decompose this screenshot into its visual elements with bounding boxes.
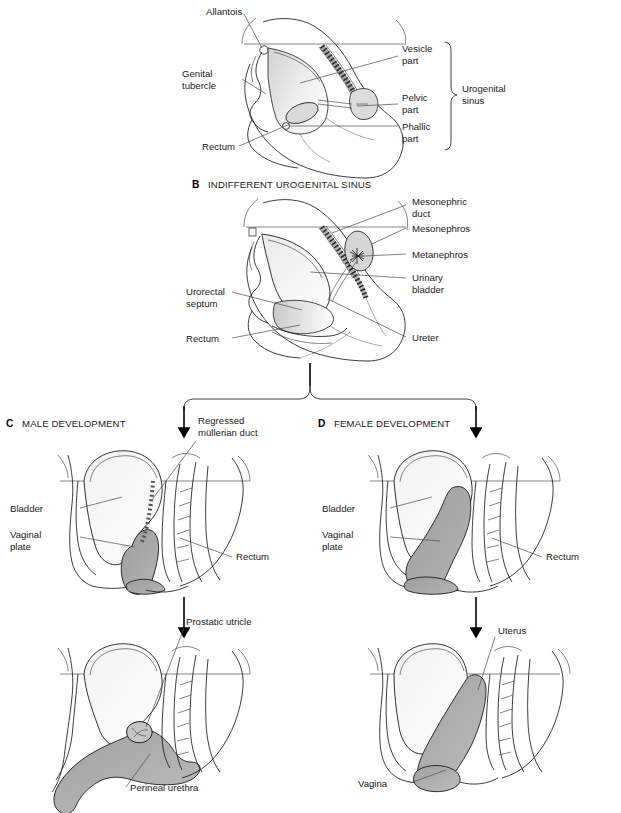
label-urorectal-septum-line1: Urorectal [186,286,225,297]
label-vaginal-plate-d-line2: plate [322,541,343,552]
panel-c-letter: C [6,418,14,429]
label-bladder-d-upper: Bladder [322,503,356,514]
label-urogenital-sinus-line2: sinus [462,95,485,106]
perineal-urethra-shape [54,730,200,813]
label-urinary-bladder-line2: bladder [412,284,445,295]
label-rectum-d-upper: Rectum [546,551,579,562]
label-bladder-c-upper: Bladder [10,503,44,514]
label-vaginal-plate-c-line2: plate [10,541,31,552]
label-uterus: Uterus [498,625,526,636]
panel-d-lower-drawing [368,644,570,792]
urogenital-development-figure: Allantois Genital tubercle Rectum Vesicl… [0,0,621,813]
brace-right [310,386,476,410]
panel-c-title: MALE DEVELOPMENT [22,418,126,429]
panel-d-title: FEMALE DEVELOPMENT [334,418,450,429]
brace-left [184,386,310,410]
panel-d-letter: D [318,418,325,429]
panel-c-upper-drawing [58,451,250,595]
label-pelvic-part-line2: part [402,104,419,115]
label-urogenital-sinus-line1: Urogenital [462,83,506,94]
panel-c-group: C MALE DEVELOPMENT [6,415,269,813]
vaginal-plate-base-d [404,577,458,594]
panel-b-title: INDIFFERENT UROGENITAL SINUS [208,179,371,190]
panel-b-drawing [244,199,408,361]
allantois-remnant-b [249,228,256,236]
vagina-base-shape [414,766,461,792]
label-mesonephric-duct-line1: Mesonephric [412,196,467,207]
label-urinary-bladder-line1: Urinary [412,272,443,283]
urogenital-sinus-brace [445,42,457,150]
panel-d-upper-drawing [368,451,560,595]
label-perineal-urethra: Perineal urethra [130,782,199,793]
panel-b-letter: B [192,179,199,190]
label-vagina: Vagina [358,778,388,789]
label-metanephros: Metanephros [412,249,468,260]
label-rectum-c-upper: Rectum [236,551,269,562]
label-prostatic-utricle: Prostatic utricle [186,616,252,627]
label-ureter: Ureter [412,332,439,343]
label-phallic-part-line1: Phallic [402,121,430,132]
label-pelvic-part-line1: Pelvic [402,92,428,103]
label-regressed-mullerian-line1: Regressed [198,415,244,426]
panel-a-group: Allantois Genital tubercle Rectum Vesicl… [182,6,506,178]
label-vaginal-plate-c-line1: Vaginal [10,529,41,540]
label-urorectal-septum-line2: septum [186,298,217,309]
label-regressed-mullerian-line2: müllerian duct [198,427,258,438]
panel-d-group: D FEMALE DEVELOPMENT [318,418,579,792]
label-rectum-b: Rectum [186,333,219,344]
label-vesicle-part-line1: Vesicle [402,43,432,54]
label-genital-tubercle-line2: tubercle [182,80,216,91]
label-vesicle-part-line2: part [402,55,419,66]
label-phallic-part-line2: part [402,133,419,144]
label-rectum-a: Rectum [202,141,235,152]
label-genital-tubercle-line1: Genital [182,68,212,79]
label-mesonephric-duct-line2: duct [412,208,430,219]
label-mesonephros: Mesonephros [412,223,470,234]
panel-a-drawing [242,18,406,178]
label-allantois: Allantois [206,6,242,17]
label-vaginal-plate-d-line1: Vaginal [322,529,353,540]
panel-b-group: B INDIFFERENT UROGENITAL SINUS [186,179,470,361]
